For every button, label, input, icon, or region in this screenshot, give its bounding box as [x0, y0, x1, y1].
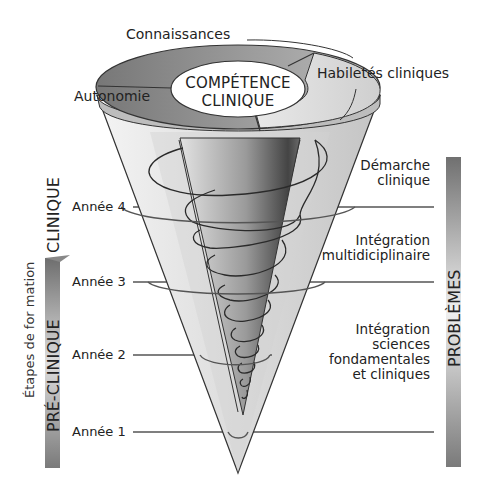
- level-demarche-clinique: Démarche clinique: [360, 158, 430, 188]
- year-label-4: Année 4: [72, 199, 126, 214]
- rim-label-connaissances: Connaissances: [126, 27, 230, 42]
- level-integration-multidisciplinaire: Intégration multidiciplinaire: [322, 233, 430, 263]
- year-label-1: Année 1: [72, 424, 126, 439]
- center-label: COMPÉTENCE CLINIQUE: [183, 74, 293, 110]
- center-line-1: COMPÉTENCE: [183, 74, 293, 92]
- rim-label-autonomie: Autonomie: [74, 89, 150, 104]
- year-label-2: Année 2: [72, 347, 126, 362]
- left-axis-title: Étapes de for mation: [22, 262, 37, 398]
- center-line-2: CLINIQUE: [183, 92, 293, 110]
- rim-label-habiletes: Habiletés cliniques: [317, 66, 449, 81]
- right-axis-title-problemes: PROBLÈMES: [445, 270, 464, 367]
- phase-clinique: CLINIQUE: [44, 177, 63, 253]
- year-label-3: Année 3: [72, 274, 126, 289]
- level-integration-sciences: Intégration sciences fondamentales et cl…: [329, 322, 430, 382]
- phase-pre-clinique: PRÉ-CLINIQUE: [44, 319, 63, 432]
